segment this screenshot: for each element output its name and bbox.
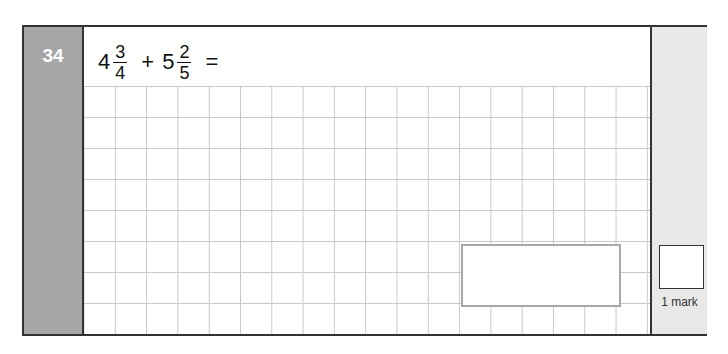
question-number: 34 (24, 45, 82, 67)
term2-whole: 5 (162, 49, 174, 75)
term1-fraction: 3 4 (113, 42, 127, 83)
term2-denominator: 5 (179, 63, 189, 83)
mark-label: 1 mark (652, 295, 707, 309)
mark-column: 1 mark (650, 27, 707, 334)
question-frame: 34 4 3 4 + 5 2 5 = 1 mark (22, 25, 707, 336)
working-area: 4 3 4 + 5 2 5 = (84, 27, 650, 334)
term2-fraction: 2 5 (177, 42, 191, 83)
term1-denominator: 4 (115, 63, 125, 83)
plus-operator: + (141, 49, 154, 75)
question-expression: 4 3 4 + 5 2 5 = (98, 37, 226, 87)
equals-sign: = (205, 49, 218, 75)
term1-numerator: 3 (113, 42, 127, 63)
term1-whole: 4 (98, 49, 110, 75)
mark-box[interactable] (659, 245, 704, 289)
answer-box[interactable] (461, 244, 621, 307)
term2-numerator: 2 (177, 42, 191, 63)
question-number-column: 34 (24, 27, 84, 334)
